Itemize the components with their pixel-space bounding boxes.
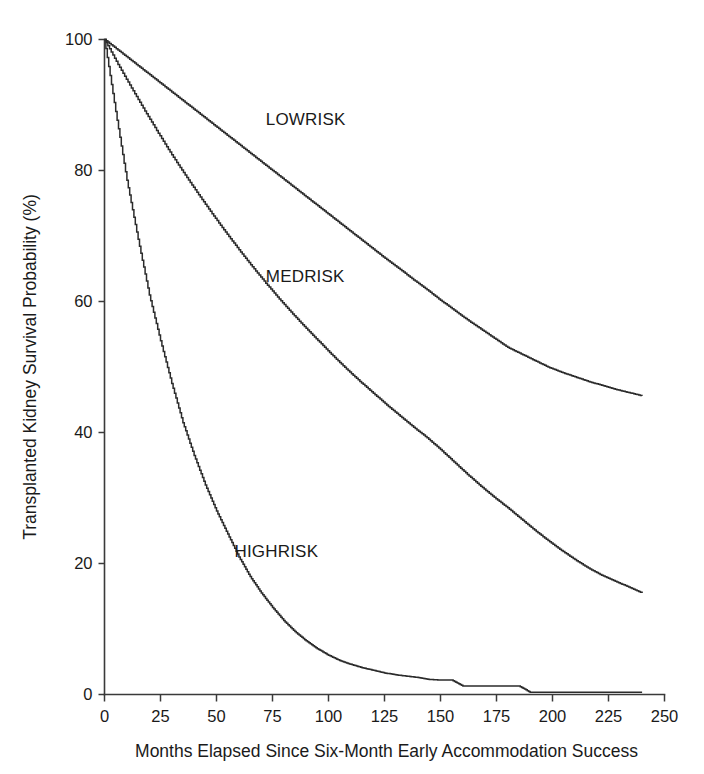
x-axis-ticks: 0255075100125150175200225250 [100, 695, 678, 725]
series-label-lowrisk: LOWRISK [266, 110, 346, 129]
x-axis-title: Months Elapsed Since Six-Month Early Acc… [135, 741, 638, 761]
x-tick-label: 50 [207, 707, 225, 725]
curve-medrisk [105, 40, 643, 593]
series-label-highrisk: HIGHRISK [234, 542, 318, 561]
x-tick-label: 225 [595, 707, 623, 725]
series-label-medrisk: MEDRISK [266, 267, 345, 286]
curve-lowrisk [105, 40, 643, 396]
curve-highrisk [105, 40, 643, 693]
x-tick-label: 200 [539, 707, 567, 725]
survival-curve-figure: 020406080100 Transplanted Kidney Surviva… [0, 0, 704, 774]
y-tick-label: 0 [83, 685, 92, 703]
y-tick-label: 60 [74, 292, 92, 310]
survival-plot-svg: 020406080100 Transplanted Kidney Surviva… [0, 0, 704, 774]
x-tick-label: 75 [263, 707, 281, 725]
y-axis-ticks: 020406080100 [65, 30, 105, 703]
x-tick-label: 175 [483, 707, 511, 725]
x-axis-group: 0255075100125150175200225250 Months Elap… [100, 695, 678, 762]
y-axis-title: Transplanted Kidney Survival Probability… [20, 194, 40, 540]
y-tick-label: 40 [74, 423, 92, 441]
y-axis-group: 020406080100 Transplanted Kidney Surviva… [20, 30, 105, 703]
y-tick-label: 20 [74, 554, 92, 572]
x-tick-label: 0 [100, 707, 109, 725]
x-tick-label: 125 [371, 707, 399, 725]
y-tick-label: 80 [74, 161, 92, 179]
x-tick-label: 250 [651, 707, 679, 725]
x-tick-label: 150 [427, 707, 455, 725]
survival-curves-group [105, 40, 643, 693]
y-tick-label: 100 [65, 30, 93, 48]
x-tick-label: 25 [151, 707, 169, 725]
series-annotations-group: LOWRISKMEDRISKHIGHRISK [234, 110, 346, 561]
x-tick-label: 100 [315, 707, 343, 725]
